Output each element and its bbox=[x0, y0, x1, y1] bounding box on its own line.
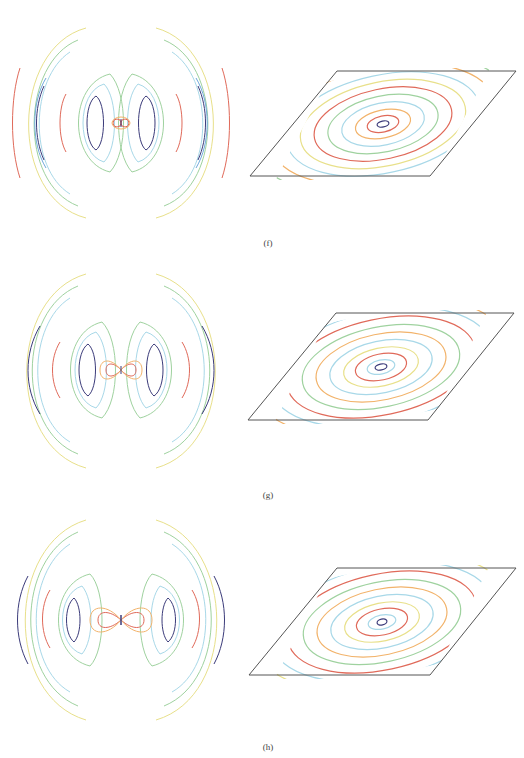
ellipse-contour-plot bbox=[247, 565, 519, 679]
caption-f: (f) bbox=[248, 238, 288, 248]
row-f-left-contour-plot bbox=[6, 8, 236, 236]
ellipse-contour-plot bbox=[248, 68, 520, 180]
row-h-left-contour-plot bbox=[6, 510, 236, 728]
radiation-pattern-plot bbox=[6, 510, 236, 728]
row-h-right-contour-plot bbox=[247, 565, 519, 679]
caption-h: (h) bbox=[248, 742, 288, 752]
row-g-right-contour-plot bbox=[246, 310, 518, 424]
caption-g: (g) bbox=[248, 490, 288, 500]
radiation-pattern-plot bbox=[6, 8, 236, 236]
row-f-right-contour-plot bbox=[248, 68, 520, 180]
row-g-left-contour-plot bbox=[6, 258, 236, 482]
ellipse-contour-plot bbox=[246, 310, 518, 424]
radiation-pattern-plot bbox=[6, 258, 236, 482]
